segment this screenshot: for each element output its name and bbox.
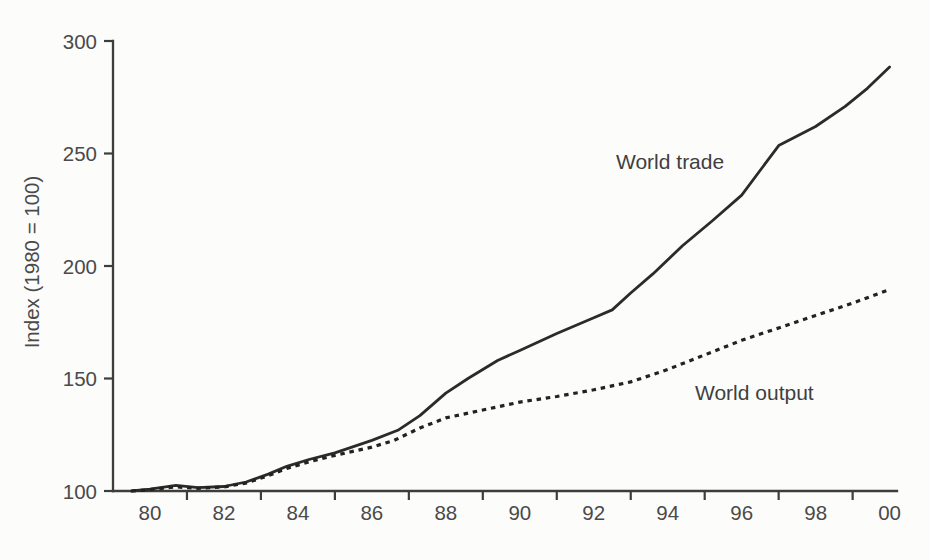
series-label-world-trade: World trade [616,150,724,173]
line-chart: 1001502002503008082848688909294969800 In… [0,0,930,560]
axes-layer: 1001502002503008082848688909294969800 [63,30,901,525]
x-tick-label: 96 [730,501,753,524]
series-line-world-trade [132,67,890,491]
x-tick-label: 80 [139,501,162,524]
x-tick-label: 98 [804,501,827,524]
x-tick-label: 88 [434,501,457,524]
y-tick-label: 250 [63,142,97,165]
x-tick-label: 90 [508,501,531,524]
series-label-world-output: World output [695,381,814,404]
x-tick-label: 84 [286,501,309,524]
series-layer [132,67,890,491]
x-tick-label: 00 [878,501,901,524]
y-tick-label: 100 [63,480,97,503]
y-tick-label: 150 [63,367,97,390]
x-tick-label: 86 [360,501,383,524]
y-tick-label: 300 [63,30,97,53]
x-tick-label: 92 [582,501,605,524]
chart-figure: 1001502002503008082848688909294969800 In… [0,0,930,560]
x-tick-label: 82 [213,501,236,524]
x-tick-label: 94 [656,501,679,524]
y-tick-label: 200 [63,255,97,278]
y-axis-title: Index (1980 = 100) [20,176,43,349]
